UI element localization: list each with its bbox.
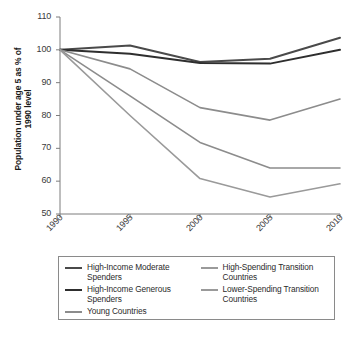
legend-swatch-icon	[65, 267, 82, 270]
legend-item[interactable]: Young Countries	[65, 306, 197, 316]
legend-label: Lower-Spending Transition Countries	[223, 284, 329, 304]
series-line-2	[60, 50, 340, 120]
chart-legend: High-Income Moderate SpendersHigh-Income…	[58, 256, 335, 320]
legend-swatch-icon	[201, 267, 218, 270]
y-axis-title-line2: 1990 level	[23, 89, 33, 128]
series-line-4	[60, 50, 340, 197]
legend-column: High-Spending Transition CountriesLower-…	[197, 262, 335, 319]
legend-item[interactable]: High-Spending Transition Countries	[201, 262, 335, 282]
legend-swatch-icon	[65, 289, 82, 292]
legend-label: High-Income Generous Spenders	[87, 284, 193, 304]
series-line-3	[60, 50, 340, 168]
legend-swatch-icon	[65, 311, 82, 314]
plot-area: 1101009080706050 19901995200020052010 Po…	[0, 0, 352, 250]
y-axis-title-line1: Population under age 5 as % of	[13, 47, 23, 170]
legend-label: High-Income Moderate Spenders	[87, 262, 193, 282]
legend-column: High-Income Moderate SpendersHigh-Income…	[59, 262, 197, 319]
chart-series	[60, 38, 340, 197]
legend-label: High-Spending Transition Countries	[223, 262, 329, 282]
line-chart-svg	[0, 0, 352, 250]
legend-item[interactable]: Lower-Spending Transition Countries	[201, 284, 335, 304]
legend-swatch-icon	[201, 289, 218, 292]
chart-container: 1101009080706050 19901995200020052010 Po…	[0, 0, 352, 347]
legend-item[interactable]: High-Income Moderate Spenders	[65, 262, 197, 282]
legend-item[interactable]: High-Income Generous Spenders	[65, 284, 197, 304]
legend-label: Young Countries	[87, 306, 147, 316]
